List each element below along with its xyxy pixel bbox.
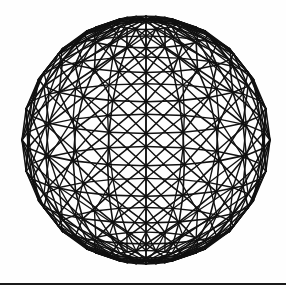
wireframe-sphere-figure — [0, 0, 286, 289]
sphere-mesh — [22, 16, 270, 264]
horizontal-rule — [0, 283, 286, 285]
